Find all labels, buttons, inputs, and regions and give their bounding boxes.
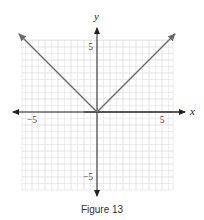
figure-caption: Figure 13 [0, 204, 204, 215]
x-tick-label: −5 [27, 115, 37, 125]
y-tick-label: −5 [83, 172, 93, 182]
x-axis-label: x [189, 105, 195, 117]
x-tick-label: 5 [160, 115, 165, 125]
y-axis-label: y [93, 10, 99, 22]
graph-figure: xy −555−5 [0, 0, 204, 220]
y-tick-label: 5 [88, 42, 93, 52]
axes: xy [13, 10, 195, 196]
